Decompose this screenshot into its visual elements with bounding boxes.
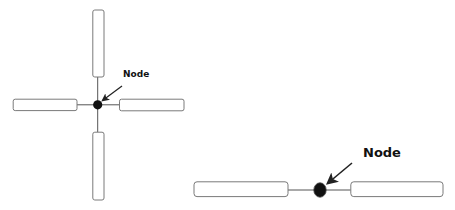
node-label: Node <box>363 145 401 160</box>
node-label: Node <box>123 69 149 79</box>
node-arrow-icon <box>103 86 123 101</box>
cross-junction-figure: Node <box>13 10 184 200</box>
arm-right <box>120 99 185 111</box>
node-dot <box>314 183 326 197</box>
arm-left <box>194 182 288 197</box>
node-dot <box>93 100 102 109</box>
linear-junction-figure: Node <box>194 145 443 197</box>
arm-left <box>13 99 77 110</box>
arm-bottom <box>93 132 104 200</box>
node-arrow-icon <box>328 163 353 184</box>
diagram-canvas: Node Node <box>0 0 455 210</box>
arm-top <box>93 10 104 77</box>
arm-right <box>351 182 443 197</box>
